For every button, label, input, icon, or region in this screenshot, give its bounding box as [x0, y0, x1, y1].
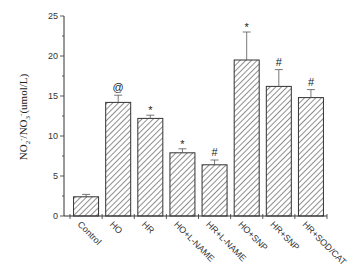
y-tick-label: 5 — [53, 171, 58, 181]
category-label: HO+SNP — [236, 219, 269, 252]
significance-marker: * — [245, 21, 250, 33]
significance-marker: # — [308, 76, 315, 88]
bar-rect — [234, 60, 259, 216]
bar-rect — [266, 86, 291, 216]
bar-ho-l-name: * — [170, 138, 195, 216]
bars-group: @**#*## — [74, 21, 324, 216]
bar-rect — [298, 98, 323, 216]
category-label: HR — [140, 219, 157, 236]
category-label: HR+SOD/CAT — [301, 219, 349, 267]
bar-chart: @**#*## ControlHOHRHO+L-NAMEHR+L-NAMEHO+… — [0, 0, 361, 280]
significance-marker: * — [148, 104, 153, 116]
bar-control — [74, 194, 99, 216]
significance-marker: # — [276, 56, 283, 68]
significance-marker: @ — [113, 81, 124, 93]
y-tick-label: 15 — [48, 91, 58, 101]
bar-rect — [74, 197, 99, 216]
bar-hr-snp: # — [266, 56, 291, 216]
significance-marker: # — [212, 146, 219, 158]
y-axis-label: NO2-/NO3-(umol/L) — [17, 74, 32, 161]
category-label: HR+SNP — [268, 219, 301, 252]
bar-rect — [170, 153, 195, 216]
category-label: Control — [76, 219, 104, 247]
category-label: HO — [108, 219, 125, 236]
y-tick-label: 20 — [48, 51, 58, 61]
y-tick-label: 10 — [48, 131, 58, 141]
bar-ho-snp: * — [234, 21, 259, 216]
bar-hr: * — [138, 104, 163, 216]
significance-marker: * — [180, 138, 185, 150]
bar-rect — [138, 118, 163, 216]
bar-hr-sod-cat: # — [298, 76, 323, 216]
bar-rect — [106, 102, 131, 216]
bar-hr-l-name: # — [202, 146, 227, 216]
y-tick-label: 25 — [48, 11, 58, 21]
bar-ho: @ — [106, 81, 131, 216]
bar-rect — [202, 165, 227, 216]
y-tick-label: 0 — [53, 211, 58, 221]
